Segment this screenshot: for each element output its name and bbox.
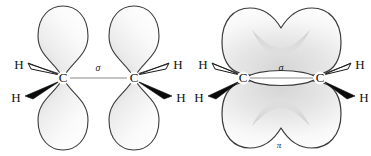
right-panel: C C H H H H σ π [194, 8, 368, 150]
atom-label-hydrogen: H [176, 90, 185, 105]
atom-label-hydrogen: H [194, 90, 203, 105]
atom-label-carbon: C [316, 70, 325, 85]
p-orbital-right-up [109, 6, 159, 78]
atom-label-carbon: C [59, 70, 68, 85]
p-lobe-shape [109, 6, 159, 78]
left-panel: C C H H H H σ [11, 6, 185, 150]
atom-label-hydrogen: H [14, 57, 23, 72]
pi-cloud-bottom [222, 78, 341, 148]
sigma-bond-label: σ [96, 62, 102, 73]
atom-label-hydrogen: H [198, 57, 207, 72]
p-lobe-shape [38, 6, 88, 78]
atom-label-hydrogen: H [355, 57, 364, 72]
atom-label-carbon: C [130, 70, 139, 85]
atom-label-hydrogen: H [11, 90, 20, 105]
p-orbital-left-up [38, 6, 88, 78]
atom-label-carbon: C [239, 70, 248, 85]
orbital-diagram-figure: C C H H H H σ [0, 0, 371, 156]
atom-label-hydrogen: H [173, 57, 182, 72]
pi-bond-label: π [277, 140, 282, 150]
diagram-canvas: C C H H H H σ [0, 0, 371, 156]
atom-label-hydrogen: H [359, 90, 368, 105]
pi-cloud-shape [222, 78, 341, 148]
